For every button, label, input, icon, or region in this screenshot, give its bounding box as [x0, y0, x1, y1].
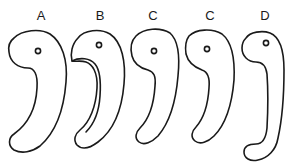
shape-label-c2: C — [205, 9, 214, 22]
shape-label-d: D — [260, 9, 269, 22]
shape-c1 — [131, 29, 179, 143]
shape-label-b: B — [96, 9, 105, 22]
shape-d — [242, 32, 284, 161]
shape-a — [9, 31, 67, 153]
shape-b — [71, 31, 124, 148]
shape-label-a: A — [37, 9, 46, 22]
shapes-canvas — [0, 0, 292, 166]
shape-label-c1: C — [148, 9, 157, 22]
shape-c2 — [186, 30, 235, 143]
comma-shapes-figure: A B C C D — [0, 0, 292, 166]
